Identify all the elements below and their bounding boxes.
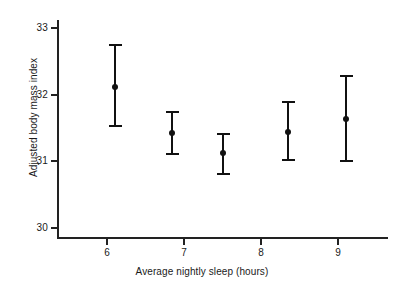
error-bar-cap-upper: [166, 111, 179, 113]
x-tick-label: 9: [328, 247, 348, 258]
x-tick-mark: [183, 239, 185, 245]
error-bar-cap-lower: [282, 159, 295, 161]
x-axis-title: Average nightly sleep (hours): [0, 266, 404, 277]
data-point-marker: [285, 129, 291, 135]
data-point-marker: [220, 150, 226, 156]
y-tick-label: 30: [22, 223, 48, 233]
x-tick-label: 6: [97, 247, 117, 258]
error-bar-cap-lower: [109, 125, 122, 127]
y-axis-title: Adjusted body mass index: [28, 23, 39, 213]
error-bar-cap-upper: [282, 101, 295, 103]
error-bar-cap-lower: [340, 160, 353, 162]
error-bar-cap-upper: [109, 44, 122, 46]
error-bar-cap-upper: [217, 133, 230, 135]
x-tick-mark: [337, 239, 339, 245]
plot-area: [57, 18, 387, 238]
x-tick-label: 7: [174, 247, 194, 258]
data-point-marker: [112, 84, 118, 90]
error-bar-cap-lower: [217, 173, 230, 175]
x-tick-label: 8: [251, 247, 271, 258]
error-bar-cap-upper: [340, 75, 353, 77]
x-tick-mark: [106, 239, 108, 245]
chart-figure: 30313233 6789 Adjusted body mass index A…: [0, 0, 404, 293]
error-bar-cap-lower: [166, 153, 179, 155]
x-tick-mark: [260, 239, 262, 245]
data-point-marker: [343, 116, 349, 122]
